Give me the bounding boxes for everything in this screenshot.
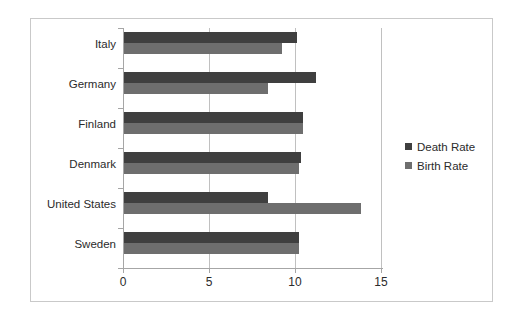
y-axis-tick [118, 148, 123, 149]
x-axis-tick-label-5: 5 [189, 275, 229, 289]
bar-group-italy [123, 28, 382, 68]
bar-birth-rate-sweden[interactable] [123, 243, 299, 254]
category-label-denmark: Denmark [0, 157, 116, 171]
bar-group-germany [123, 68, 382, 108]
category-label-germany: Germany [0, 77, 116, 91]
legend-label-birth-rate: Birth Rate [417, 160, 468, 172]
bar-death-rate-germany[interactable] [123, 72, 316, 83]
category-label-finland: Finland [0, 117, 116, 131]
legend-label-death-rate: Death Rate [417, 141, 475, 153]
bar-death-rate-sweden[interactable] [123, 232, 299, 243]
y-axis-tick [118, 68, 123, 69]
bar-birth-rate-germany[interactable] [123, 83, 268, 94]
x-axis-tick [123, 268, 124, 273]
category-label-united-states: United States [0, 197, 116, 211]
x-axis-tick [295, 268, 296, 273]
chart-frame: Italy Germany Finland Denmark United Sta… [30, 18, 493, 302]
bar-group-united-states [123, 188, 382, 228]
x-axis-tick [209, 268, 210, 273]
plot-area [123, 28, 382, 268]
y-axis-tick [118, 108, 123, 109]
bar-death-rate-italy[interactable] [123, 32, 297, 43]
legend-swatch-icon [405, 162, 412, 169]
y-axis-tick [118, 228, 123, 229]
category-label-italy: Italy [0, 37, 116, 51]
y-axis-line [123, 28, 124, 268]
x-axis-tick-label-15: 15 [361, 275, 401, 289]
legend-swatch-icon [405, 143, 412, 150]
bar-birth-rate-finland[interactable] [123, 123, 303, 134]
y-axis-tick [118, 188, 123, 189]
x-axis-line [123, 268, 383, 269]
bar-group-sweden [123, 228, 382, 268]
bar-group-denmark [123, 148, 382, 188]
chart-legend: Death Rate Birth Rate [405, 137, 491, 175]
bar-birth-rate-italy[interactable] [123, 43, 282, 54]
x-axis-tick-label-0: 0 [103, 275, 143, 289]
legend-item-death-rate[interactable]: Death Rate [405, 137, 491, 156]
bar-death-rate-denmark[interactable] [123, 152, 301, 163]
x-axis-tick-label-10: 10 [275, 275, 315, 289]
bar-death-rate-united-states[interactable] [123, 192, 268, 203]
bar-birth-rate-united-states[interactable] [123, 203, 361, 214]
category-label-sweden: Sweden [0, 237, 116, 251]
bar-birth-rate-denmark[interactable] [123, 163, 299, 174]
legend-item-birth-rate[interactable]: Birth Rate [405, 156, 491, 175]
bar-group-finland [123, 108, 382, 148]
y-axis-tick [118, 28, 123, 29]
bar-death-rate-finland[interactable] [123, 112, 303, 123]
x-axis-tick [381, 268, 382, 273]
